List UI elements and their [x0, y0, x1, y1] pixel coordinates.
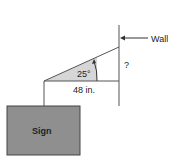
wall-arrowhead-icon: [120, 36, 125, 41]
angle-label: 25°: [77, 69, 91, 79]
unknown-height-label: ?: [124, 60, 129, 70]
wall-label: Wall: [151, 34, 168, 44]
diagram-canvas: Wall ? 25° 48 in. Sign: [0, 0, 176, 163]
length-label: 48 in.: [73, 85, 95, 95]
sign-label: Sign: [32, 126, 52, 136]
